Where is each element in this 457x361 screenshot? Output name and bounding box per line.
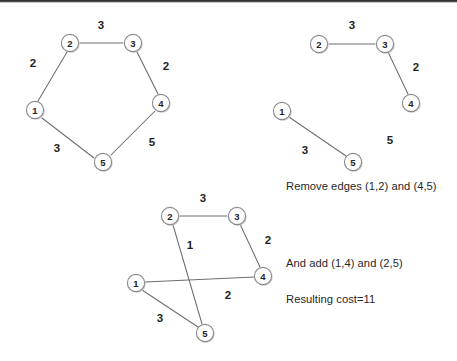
caption-resulting-cost: Resulting cost=11 — [286, 293, 375, 305]
edge-weight-group: 2 3 2 5 3 — [30, 19, 169, 154]
edge-weight-2-3: 3 — [200, 192, 206, 204]
edge-weight-5-1: 3 — [54, 142, 60, 154]
graph-original-cycle: 1 2 3 4 5 2 3 2 5 3 — [26, 19, 170, 172]
node-1-label: 1 — [32, 105, 38, 116]
edge-3-4 — [137, 52, 158, 94]
edge-weight-3-4: 2 — [265, 234, 271, 246]
edge-4-5 — [111, 111, 155, 155]
edge-1-4 — [145, 277, 254, 282]
graph-edges-removed: 1 2 3 4 5 3 2 3 5 — [273, 19, 420, 172]
node-1-label: 1 — [133, 278, 139, 289]
node-group: 1 2 3 4 5 — [273, 35, 420, 171]
edge-weight-1-4: 2 — [225, 289, 231, 301]
edge-weight-1-5: 3 — [302, 144, 308, 156]
node-5-label: 5 — [202, 328, 208, 339]
node-3-label: 3 — [130, 38, 135, 49]
orphan-weight-label: 5 — [387, 134, 394, 146]
edge-weight-2-5: 1 — [187, 239, 194, 251]
node-1-label: 1 — [279, 106, 285, 117]
caption-add-edges: And add (1,4) and (2,5) — [286, 257, 403, 269]
edge-weight-3-4: 2 — [413, 61, 419, 73]
edge-3-4 — [388, 52, 408, 94]
node-2-label: 2 — [67, 38, 72, 49]
node-5-label: 5 — [350, 157, 356, 168]
node-4-label: 4 — [260, 271, 266, 282]
node-4-label: 4 — [408, 98, 414, 109]
edge-group — [38, 43, 158, 158]
edge-3-4 — [240, 224, 260, 267]
graph-reconnected: 1 2 3 4 5 3 2 1 2 3 — [127, 192, 272, 343]
edge-1-5 — [142, 290, 198, 327]
node-3-label: 3 — [382, 39, 387, 50]
figure-canvas: 1 2 3 4 5 2 3 2 5 3 — [0, 0, 457, 361]
edge-weight-1-2: 2 — [30, 57, 36, 69]
edge-weight-3-4: 2 — [163, 60, 169, 72]
node-group: 1 2 3 4 5 — [127, 207, 272, 342]
caption-remove-edges: Remove edges (1,2) and (4,5) — [286, 180, 437, 192]
node-2-label: 2 — [316, 39, 321, 50]
node-3-label: 3 — [234, 211, 239, 222]
edge-weight-2-3: 3 — [98, 19, 104, 31]
node-5-label: 5 — [100, 157, 106, 168]
edge-5-1 — [42, 118, 94, 158]
node-2-label: 2 — [167, 211, 172, 222]
edge-weight-2-3: 3 — [349, 19, 355, 31]
node-4-label: 4 — [158, 98, 164, 109]
edge-1-2 — [38, 52, 67, 101]
node-group: 1 2 3 4 5 — [26, 34, 170, 171]
edge-weight-1-5: 3 — [157, 312, 163, 324]
edge-group — [142, 216, 260, 327]
edge-weight-4-5: 5 — [149, 136, 156, 148]
edge-1-5 — [289, 117, 346, 156]
